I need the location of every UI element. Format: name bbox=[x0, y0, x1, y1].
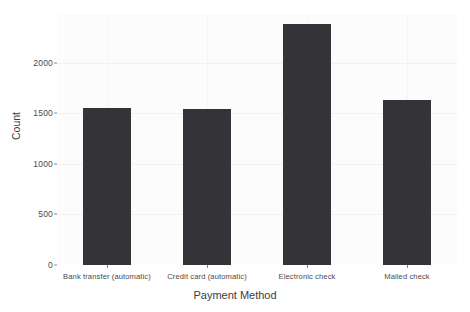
x-tick-label: Bank transfer (automatic) bbox=[63, 272, 151, 281]
y-tick-label: 1000 bbox=[33, 159, 53, 169]
bar-chart-figure: 0500100015002000 Count Payment Method Ba… bbox=[0, 0, 470, 312]
x-tick-label: Mailed check bbox=[384, 272, 430, 281]
y-axis-title: Count bbox=[10, 112, 22, 140]
y-tick-label: 2000 bbox=[33, 58, 53, 68]
x-tick-mark bbox=[307, 265, 308, 268]
x-tick-mark bbox=[107, 265, 108, 268]
x-tick-label: Credit card (automatic) bbox=[167, 272, 247, 281]
x-tick-label: Electronic check bbox=[279, 272, 336, 281]
gridline-horizontal bbox=[57, 63, 457, 64]
plot-area bbox=[57, 14, 457, 265]
x-tick-mark bbox=[407, 265, 408, 268]
y-tick-label: 0 bbox=[48, 260, 53, 270]
x-tick-mark bbox=[207, 265, 208, 268]
y-axis: 0500100015002000 bbox=[0, 0, 57, 312]
x-axis-title: Payment Method bbox=[0, 289, 470, 301]
bar[interactable] bbox=[383, 100, 431, 265]
y-tick-label: 1500 bbox=[33, 108, 53, 118]
bar[interactable] bbox=[83, 108, 131, 265]
bar[interactable] bbox=[283, 24, 331, 265]
y-tick-label: 500 bbox=[38, 209, 53, 219]
bar[interactable] bbox=[183, 109, 231, 265]
